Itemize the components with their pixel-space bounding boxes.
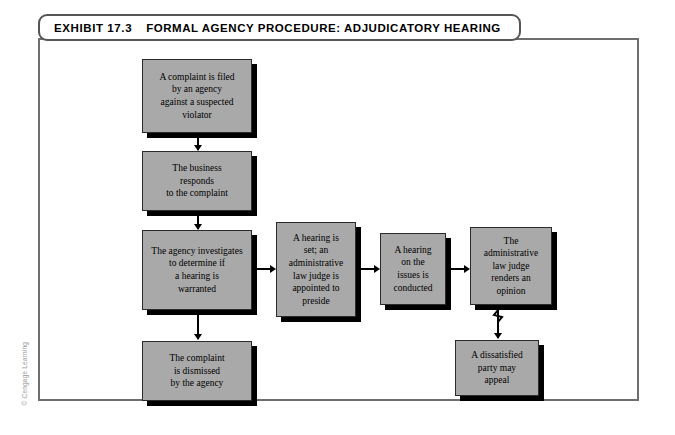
node-line: The (476, 235, 546, 248)
node-line: The complaint (148, 352, 246, 365)
node-line: A dissatisfied (461, 349, 533, 362)
node-line: The business (148, 162, 246, 175)
node-line: a hearing is (148, 270, 246, 283)
node-judge-renders-opinion[interactable]: The administrative law judge renders an … (470, 227, 552, 305)
node-agency-investigates[interactable]: The agency investigates to determine if … (142, 230, 252, 310)
node-party-may-appeal[interactable]: A dissatisfied party may appeal (455, 340, 539, 396)
node-business-responds[interactable]: The business responds to the complaint (142, 151, 252, 211)
node-line: A complaint is filed (148, 71, 246, 84)
node-line: violator (148, 109, 246, 122)
exhibit-frame (38, 38, 639, 401)
node-line: to determine if (148, 257, 246, 270)
node-line: appointed to (282, 282, 350, 295)
node-line: against a suspected (148, 96, 246, 109)
node-line: responds (148, 175, 246, 188)
node-line: A hearing is (282, 232, 350, 245)
node-line: opinion (476, 285, 546, 298)
node-line: set; an (282, 244, 350, 257)
node-line: warranted (148, 283, 246, 296)
node-line: renders an (476, 272, 546, 285)
arrowhead-complaint-dismissed (194, 334, 202, 340)
node-line: administrative (282, 257, 350, 270)
node-line: appeal (461, 374, 533, 387)
page-title: FORMAL AGENCY PROCEDURE: ADJUDICATORY HE… (146, 22, 501, 34)
node-complaint-filed[interactable]: A complaint is filed by an agency agains… (142, 59, 252, 133)
node-line: The agency investigates (148, 245, 246, 258)
node-line: party may (461, 362, 533, 375)
node-line: A hearing (386, 244, 440, 257)
node-line: to the complaint (148, 187, 246, 200)
node-line: issues is (386, 269, 440, 282)
node-line: is dismissed (148, 365, 246, 378)
node-line: law judge is (282, 270, 350, 283)
node-line: administrative (476, 247, 546, 260)
exhibit-figure: EXHIBIT 17.3 FORMAL AGENCY PROCEDURE: AD… (0, 0, 675, 435)
node-line: preside (282, 295, 350, 308)
node-line: by an agency (148, 83, 246, 96)
exhibit-title-banner: EXHIBIT 17.3 FORMAL AGENCY PROCEDURE: AD… (38, 14, 521, 41)
node-line: conducted (386, 282, 440, 295)
node-line: law judge (476, 260, 546, 273)
node-hearing-conducted[interactable]: A hearing on the issues is conducted (380, 233, 446, 305)
node-line: on the (386, 256, 440, 269)
arrowhead-party-appeal (494, 333, 502, 339)
node-hearing-set[interactable]: A hearing is set; an administrative law … (276, 222, 356, 317)
node-complaint-dismissed[interactable]: The complaint is dismissed by the agency (142, 341, 252, 401)
node-line: by the agency (148, 377, 246, 390)
connector-break-icon (489, 309, 507, 323)
copyright-credit: © Cengage Learning (21, 326, 28, 406)
exhibit-number: EXHIBIT 17.3 (54, 22, 132, 34)
